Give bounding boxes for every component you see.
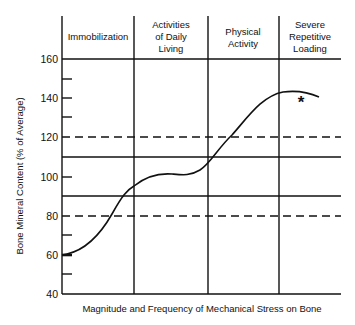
zone-labels: Immobilization Activities of Daily Livin… <box>68 19 331 54</box>
zone-label-severe-2: Repetitive <box>289 31 331 42</box>
y-minor-ticks <box>62 79 72 274</box>
zone-label-physical-2: Activity <box>228 38 258 49</box>
svg-text:140: 140 <box>40 92 58 104</box>
zone-label-physical-1: Physical <box>225 26 260 37</box>
bone-mineral-chart: 160 140 120 100 80 60 40 Immobilization … <box>0 0 355 325</box>
y-tick-labels: 160 140 120 100 80 60 40 <box>40 53 58 300</box>
zone-label-immobilization: Immobilization <box>68 31 129 42</box>
asterisk-annotation: * <box>298 93 305 112</box>
svg-text:40: 40 <box>46 288 58 300</box>
bone-mineral-curve <box>62 91 319 255</box>
zone-label-daily-living-2: of Daily <box>155 31 187 42</box>
zone-label-severe-1: Severe <box>295 19 325 30</box>
zone-label-severe-3: Loading <box>293 43 327 54</box>
svg-text:160: 160 <box>40 53 58 65</box>
x-axis-title: Magnitude and Frequency of Mechanical St… <box>82 303 321 314</box>
zone-label-daily-living-1: Activities <box>152 19 190 30</box>
svg-text:80: 80 <box>46 210 58 222</box>
y-axis-title: Bone Mineral Content (% of Average) <box>14 97 25 254</box>
svg-text:120: 120 <box>40 131 58 143</box>
svg-text:100: 100 <box>40 171 58 183</box>
zone-label-daily-living-3: Living <box>159 43 184 54</box>
svg-text:60: 60 <box>46 249 58 261</box>
